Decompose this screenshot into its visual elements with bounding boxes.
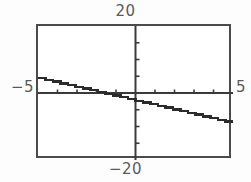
x-max-label: 5 — [236, 80, 250, 95]
graph-screenshot: 20 −5 5 −20 — [0, 0, 251, 182]
y-min-label: −20 — [0, 162, 251, 177]
x-min-label: −5 — [2, 80, 34, 95]
plot-canvas — [38, 26, 233, 160]
axes-group — [38, 26, 233, 160]
y-max-label: 20 — [0, 4, 251, 19]
plot-frame — [36, 24, 231, 158]
